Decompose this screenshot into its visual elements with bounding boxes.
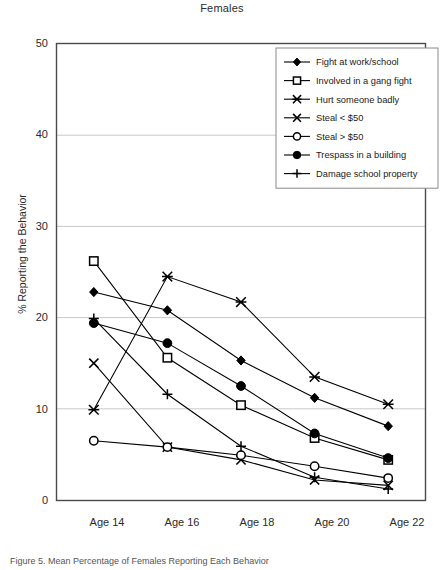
- chart-legend: Fight at work/schoolInvolved in a gang f…: [276, 48, 438, 188]
- legend-label-1: Fight at work/school: [316, 57, 399, 67]
- series-6: [89, 319, 392, 463]
- plot-area: Fight at work/schoolInvolved in a gang f…: [0, 0, 444, 570]
- chart-figure: Females % Reporting the Behavior 50 40 3…: [0, 0, 444, 570]
- legend-label-5: Steal > $50: [316, 132, 363, 142]
- series-layer: [88, 257, 393, 494]
- legend-label-4: Steal < $50: [316, 113, 363, 123]
- legend-label-3: Hurt someone badly: [316, 95, 400, 105]
- figure-caption: Figure 5. Mean Percentage of Females Rep…: [10, 556, 440, 568]
- legend-label-6: Trespass in a building: [316, 150, 406, 160]
- series-3: [88, 272, 393, 415]
- legend-label-2: Involved in a gang fight: [316, 76, 412, 86]
- legend-item-5[interactable]: Steal > $50: [284, 132, 363, 142]
- legend-label-7: Damage school property: [316, 169, 418, 179]
- series-4: [89, 359, 393, 490]
